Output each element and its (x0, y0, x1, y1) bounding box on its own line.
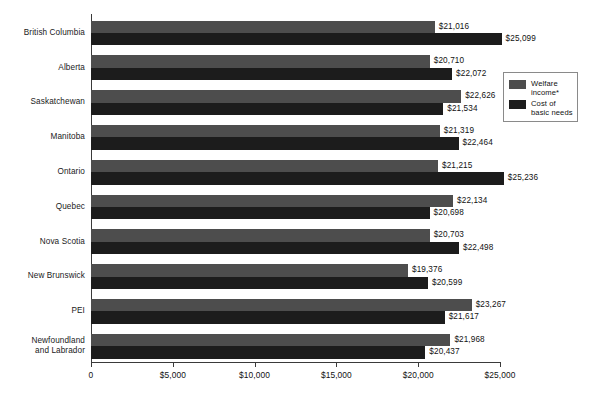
plot-area: $21,016$25,099$20,710$22,072$22,626$21,5… (91, 14, 500, 362)
category-label: British Columbia (0, 28, 85, 38)
category-label: Nova Scotia (0, 237, 85, 247)
bar (91, 90, 461, 102)
x-axis-tick (418, 362, 419, 367)
bar-value-label: $22,626 (465, 90, 495, 102)
bar-value-label: $21,215 (442, 160, 472, 172)
category-label: Alberta (0, 63, 85, 73)
bar (91, 264, 408, 276)
bar-value-label: $22,072 (456, 68, 486, 80)
bar-value-label: $21,319 (444, 125, 474, 137)
bar (91, 172, 504, 184)
legend-label-cost-of-basic-needs: Cost of basic needs (531, 99, 573, 117)
chart-legend: Welfare income* Cost of basic needs (503, 72, 578, 122)
bar-group: $22,134$20,698 (91, 188, 500, 223)
bar (91, 195, 453, 207)
bar-value-label: $22,134 (457, 195, 487, 207)
welfare-income-vs-cost-of-basic-needs-chart: British ColumbiaAlbertaSaskatchewanManit… (0, 0, 593, 395)
bar-value-label: $21,617 (449, 311, 479, 323)
bar-value-label: $25,099 (506, 33, 536, 45)
bar-value-label: $20,437 (429, 346, 459, 358)
bar-group: $20,710$22,072 (91, 49, 500, 84)
bar (91, 137, 459, 149)
x-axis-tick-label: $15,000 (321, 370, 352, 380)
category-label: PEI (0, 306, 85, 316)
bar (91, 299, 472, 311)
bar-group: $23,267$21,617 (91, 292, 500, 327)
bar (91, 160, 438, 172)
bar-value-label: $20,710 (434, 55, 464, 67)
bar-value-label: $19,376 (412, 264, 442, 276)
bar-value-label: $22,464 (463, 137, 493, 149)
bar (91, 334, 450, 346)
legend-swatch-cost-of-basic-needs (509, 100, 526, 109)
legend-item-cost-of-basic-needs: Cost of basic needs (509, 99, 573, 117)
bar-value-label: $25,236 (508, 172, 538, 184)
bar-value-label: $21,968 (454, 334, 484, 346)
bar-group: $21,016$25,099 (91, 14, 500, 49)
bar-value-label: $20,703 (434, 229, 464, 241)
x-axis-tick (91, 362, 92, 367)
category-label: Quebec (0, 202, 85, 212)
x-axis-tick-label: 0 (89, 370, 94, 380)
bar-value-label: $21,016 (439, 21, 469, 33)
legend-swatch-welfare-income (509, 80, 526, 89)
category-label: Newfoundland and Labrador (0, 336, 85, 357)
bar (91, 242, 459, 254)
category-label: Manitoba (0, 132, 85, 142)
bar-value-label: $21,534 (447, 103, 477, 115)
x-axis-tick-label: $20,000 (403, 370, 434, 380)
bar-value-label: $22,498 (463, 242, 493, 254)
bar-value-label: $23,267 (476, 299, 506, 311)
legend-item-welfare-income: Welfare income* (509, 79, 559, 97)
legend-label-welfare-income: Welfare income* (531, 79, 559, 97)
bar (91, 277, 428, 289)
x-axis-tick (255, 362, 256, 367)
category-label: New Brunswick (0, 271, 85, 281)
x-axis-tick-label: $10,000 (239, 370, 270, 380)
bar-group: $20,703$22,498 (91, 223, 500, 258)
category-axis-labels: British ColumbiaAlbertaSaskatchewanManit… (0, 14, 85, 362)
bar (91, 207, 430, 219)
bar-value-label: $20,599 (432, 277, 462, 289)
x-axis-tick (500, 362, 501, 367)
x-axis-tick (336, 362, 337, 367)
bar (91, 125, 440, 137)
bar-value-label: $20,698 (434, 207, 464, 219)
bar (91, 33, 502, 45)
x-axis-line (91, 362, 500, 363)
bar-group: $21,215$25,236 (91, 153, 500, 188)
x-axis-tick-label: $5,000 (160, 370, 186, 380)
x-axis-tick-label: $25,000 (485, 370, 516, 380)
category-label: Ontario (0, 167, 85, 177)
bar (91, 346, 425, 358)
bar (91, 311, 445, 323)
bar-group: $21,319$22,464 (91, 118, 500, 153)
bar-group: $19,376$20,599 (91, 258, 500, 293)
bar-group: $22,626$21,534 (91, 84, 500, 119)
category-label: Saskatchewan (0, 97, 85, 107)
bar (91, 103, 443, 115)
bar (91, 68, 452, 80)
bar (91, 21, 435, 33)
bar (91, 229, 430, 241)
x-axis-tick (173, 362, 174, 367)
bar-group: $21,968$20,437 (91, 327, 500, 362)
bar (91, 55, 430, 67)
